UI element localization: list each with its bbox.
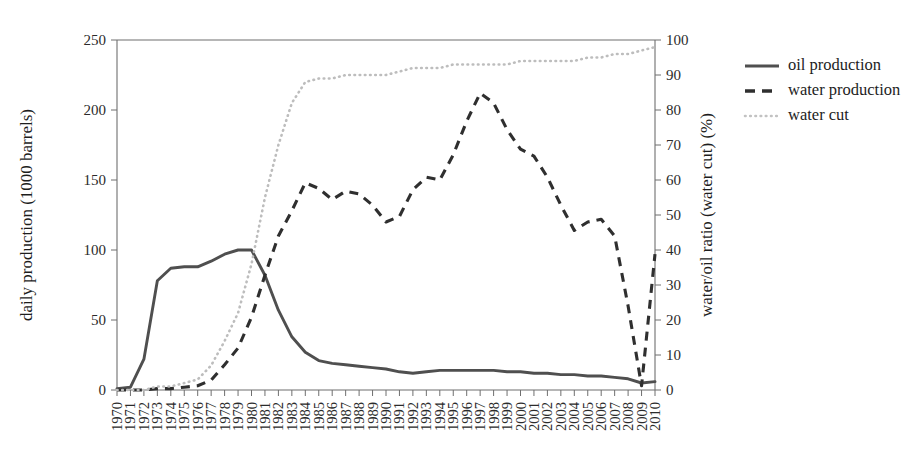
series-layer	[117, 47, 655, 390]
y-right-tick-label: 50	[666, 207, 681, 223]
plot-frame	[117, 40, 655, 390]
production-water-cut-chart: 050100150200250 0102030405060708090100 1…	[0, 0, 919, 460]
y-right-tick-label: 10	[666, 347, 681, 363]
x-axis-ticks: 1970197119721973197419751976197719781979…	[109, 390, 663, 431]
y-right-tick-label: 90	[666, 67, 681, 83]
series-line-oil-production	[117, 250, 655, 389]
y-axis-left-ticks: 050100150200250	[84, 32, 118, 398]
x-tick-label: 2010	[647, 402, 663, 431]
legend-label-oil-production: oil production	[788, 55, 881, 74]
y-right-tick-label: 40	[666, 242, 681, 258]
legend-label-water-cut: water cut	[788, 105, 849, 124]
y-left-tick-label: 0	[99, 382, 107, 398]
y-left-tick-label: 50	[91, 312, 106, 328]
y-right-tick-label: 60	[666, 172, 681, 188]
y-left-tick-label: 100	[84, 242, 107, 258]
y-right-tick-label: 80	[666, 102, 681, 118]
y-left-tick-label: 200	[84, 102, 107, 118]
y-right-tick-label: 30	[666, 277, 681, 293]
series-line-water-production	[117, 93, 655, 390]
legend-label-water-production: water production	[788, 80, 900, 99]
y-axis-right-title: water/oil ratio (water cut) (%)	[697, 113, 716, 317]
y-axis-left-title: daily production (1000 barrels)	[17, 109, 36, 321]
y-right-tick-label: 0	[666, 382, 674, 398]
y-right-tick-label: 20	[666, 312, 681, 328]
series-line-water-cut	[117, 47, 655, 390]
chart-figure: 050100150200250 0102030405060708090100 1…	[0, 0, 919, 460]
y-left-tick-label: 250	[84, 32, 107, 48]
chart-legend: oil production water production water cu…	[745, 55, 900, 124]
y-axis-right-ticks: 0102030405060708090100	[655, 32, 689, 398]
y-right-tick-label: 100	[666, 32, 689, 48]
y-right-tick-label: 70	[666, 137, 681, 153]
y-left-tick-label: 150	[84, 172, 107, 188]
